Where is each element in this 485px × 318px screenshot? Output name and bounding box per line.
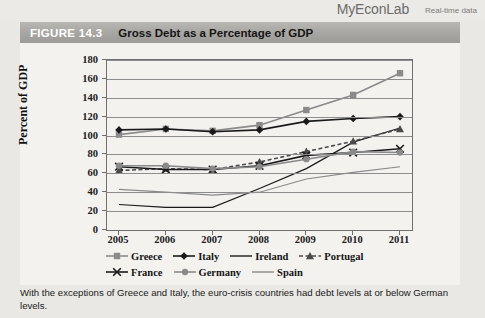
- y-axis-tick: [102, 59, 106, 60]
- series-marker-greece: [303, 107, 309, 113]
- y-axis-tick-label: 60: [72, 167, 98, 178]
- x-axis-tick-label: 2005: [98, 234, 138, 245]
- y-axis-tick-label: 120: [72, 110, 98, 121]
- chart-series-layer: [107, 60, 412, 230]
- x-axis-tick-label: 2006: [145, 234, 185, 245]
- series-marker-germany: [116, 163, 122, 169]
- y-axis-tick: [102, 191, 106, 192]
- gridline: [107, 173, 412, 174]
- y-axis-tick-label: 0: [72, 224, 98, 235]
- legend-row-2: FranceGermanySpain: [106, 264, 426, 280]
- gridline: [107, 136, 412, 137]
- legend-item-germany[interactable]: Germany: [174, 267, 242, 278]
- x-axis-tick: [399, 231, 400, 235]
- gridline: [107, 211, 412, 212]
- x-axis-tick-label: 2010: [332, 234, 372, 245]
- gridline: [107, 154, 412, 155]
- legend-label-italy: Italy: [198, 251, 219, 262]
- gridline: [107, 98, 412, 99]
- y-axis-title: Percent of GDP: [16, 65, 31, 145]
- legend-symbol-france: [106, 267, 128, 277]
- y-axis-tick: [102, 229, 106, 230]
- series-marker-germany: [303, 156, 309, 162]
- figure-caption: With the exceptions of Greece and Italy,…: [20, 287, 472, 313]
- legend-item-portugal[interactable]: Portugal: [299, 251, 363, 262]
- legend-symbol-portugal: [299, 251, 321, 261]
- gridline: [107, 117, 412, 118]
- gridline: [107, 192, 412, 193]
- series-marker-germany: [256, 164, 262, 170]
- legend-label-greece: Greece: [131, 251, 162, 262]
- y-axis-tick-label: 140: [72, 91, 98, 102]
- figure-number: FIGURE 14.3: [30, 27, 102, 39]
- y-axis-tick-label: 20: [72, 205, 98, 216]
- figure-title-bar: FIGURE 14.3 Gross Debt as a Percentage o…: [20, 22, 460, 43]
- y-axis-tick: [102, 210, 106, 211]
- myeconlab-brand-strip: MyEconLab Real-time data: [0, 0, 485, 22]
- series-marker-italy: [303, 118, 311, 126]
- y-axis-tick: [102, 97, 106, 98]
- y-axis-tick: [102, 172, 106, 173]
- legend-swatch-italy: [173, 251, 195, 261]
- x-axis-tick: [212, 231, 213, 235]
- legend-label-germany: Germany: [199, 267, 242, 278]
- legend-item-spain[interactable]: Spain: [252, 267, 303, 278]
- legend-swatch-spain: [252, 267, 274, 277]
- x-axis-tick-label: 2008: [239, 234, 279, 245]
- legend-label-spain: Spain: [277, 267, 303, 278]
- series-line-spain: [119, 167, 400, 195]
- x-axis-tick-label: 2007: [192, 234, 232, 245]
- gridline: [107, 79, 412, 80]
- x-axis-tick-label: 2009: [285, 234, 325, 245]
- legend-symbol-spain: [252, 267, 274, 277]
- y-axis-tick-label: 80: [72, 148, 98, 159]
- legend-symbol-italy: [173, 251, 195, 261]
- x-axis-tick: [165, 231, 166, 235]
- chart-panel: Percent of GDP 0204060801001201401601802…: [20, 43, 460, 285]
- chart-legend: GreeceItalyIrelandPortugal FranceGermany…: [106, 248, 426, 280]
- series-marker-germany: [209, 165, 215, 171]
- x-axis-tick: [259, 231, 260, 235]
- legend-symbol-greece: [106, 251, 128, 261]
- legend-item-greece[interactable]: Greece: [106, 251, 162, 262]
- real-time-data-label: Real-time data: [425, 6, 477, 15]
- y-axis-tick-label: 40: [72, 186, 98, 197]
- plot-area: [106, 59, 413, 231]
- legend-swatch-ireland: [230, 251, 252, 261]
- figure-title: Gross Debt as a Percentage of GDP: [118, 27, 313, 39]
- legend-label-portugal: Portugal: [324, 251, 363, 262]
- y-axis-tick: [102, 78, 106, 79]
- series-marker-germany: [163, 163, 169, 169]
- x-axis-tick-label: 2011: [379, 234, 419, 245]
- legend-swatch-france: [106, 267, 128, 277]
- y-axis-tick: [102, 153, 106, 154]
- y-axis-tick: [102, 116, 106, 117]
- gridline: [107, 60, 412, 61]
- y-axis-tick-label: 180: [72, 54, 98, 65]
- legend-row-1: GreeceItalyIrelandPortugal: [106, 248, 426, 264]
- y-axis-tick: [102, 135, 106, 136]
- series-marker-greece: [397, 70, 403, 76]
- y-axis-tick-label: 160: [72, 72, 98, 83]
- legend-label-ireland: Ireland: [255, 251, 288, 262]
- legend-item-france[interactable]: France: [106, 267, 163, 278]
- legend-item-ireland[interactable]: Ireland: [230, 251, 288, 262]
- y-axis-tick-label: 100: [72, 129, 98, 140]
- legend-swatch-germany: [174, 267, 196, 277]
- x-axis-tick: [352, 231, 353, 235]
- legend-symbol-germany: [174, 267, 196, 277]
- legend-swatch-portugal: [299, 251, 321, 261]
- legend-swatch-greece: [106, 251, 128, 261]
- legend-symbol-ireland: [230, 251, 252, 261]
- x-axis-tick: [305, 231, 306, 235]
- legend-label-france: France: [131, 267, 163, 278]
- myeconlab-logo: MyEconLab: [337, 1, 409, 17]
- x-axis-tick: [118, 231, 119, 235]
- legend-item-italy[interactable]: Italy: [173, 251, 219, 262]
